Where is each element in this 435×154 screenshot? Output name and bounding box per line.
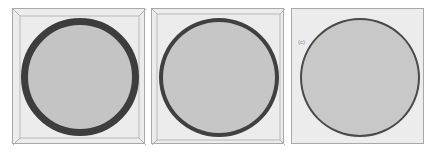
medium-ring-circle xyxy=(159,18,279,137)
panel-1 xyxy=(12,8,145,144)
thin-ring-circle xyxy=(300,18,420,137)
panel-3: (c) xyxy=(291,8,424,144)
thick-ring-circle xyxy=(21,18,139,136)
panel-label: (c) xyxy=(298,39,305,45)
panel-2 xyxy=(151,8,284,144)
